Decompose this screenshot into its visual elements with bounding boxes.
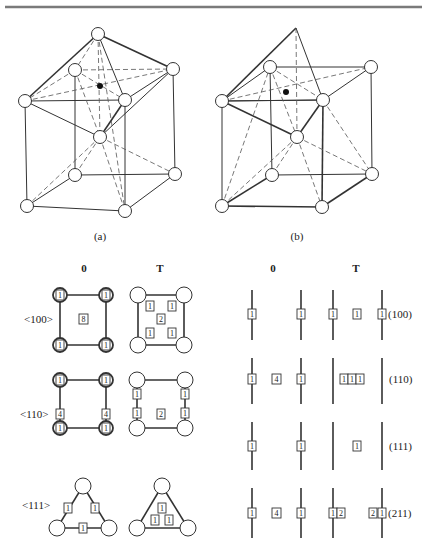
atom <box>69 169 82 182</box>
svg-text:1: 1 <box>355 310 359 319</box>
svg-text:2: 2 <box>339 509 343 518</box>
svg-text:1: 1 <box>380 509 384 518</box>
atom <box>169 168 182 181</box>
svg-text:1: 1 <box>58 291 62 300</box>
atom <box>266 169 279 182</box>
plane-label-111: (111) <box>389 440 412 453</box>
svg-text:1: 1 <box>380 310 384 319</box>
figure-canvas: (a) <box>0 0 433 558</box>
svg-text:1: 1 <box>58 376 62 385</box>
svg-text:1: 1 <box>104 376 108 385</box>
cube-b-tetrahedral <box>216 28 379 214</box>
atom <box>94 131 107 144</box>
svg-text:1: 1 <box>299 442 303 451</box>
atom <box>365 61 378 74</box>
caption-a: (a) <box>94 230 107 243</box>
atom <box>216 200 229 213</box>
svg-text:1: 1 <box>355 442 359 451</box>
svg-text:1: 1 <box>58 424 62 433</box>
atom <box>264 61 277 74</box>
svg-text:4: 4 <box>275 375 279 384</box>
svg-text:1: 1 <box>183 390 187 399</box>
row-100-direction: 1 1 1 1 8 1 1 2 1 1 <box>53 287 192 353</box>
direction-label-100: <100> <box>24 313 53 325</box>
svg-text:1: 1 <box>153 516 157 525</box>
row-111-direction: 1 1 1 1 1 1 <box>49 478 196 536</box>
atom <box>69 64 82 77</box>
atom <box>167 63 180 76</box>
svg-text:1: 1 <box>167 516 171 525</box>
atom <box>291 131 304 144</box>
atom <box>317 94 330 107</box>
row-100-plane: 1 1 1 1 1 <box>248 290 386 340</box>
svg-text:2: 2 <box>159 315 163 324</box>
svg-text:1: 1 <box>135 409 139 418</box>
svg-text:1: 1 <box>104 341 108 350</box>
svg-text:1: 1 <box>299 310 303 319</box>
caption-b: (b) <box>291 230 304 243</box>
left-header-o: 0 <box>81 262 87 274</box>
svg-text:2: 2 <box>371 509 375 518</box>
svg-text:1: 1 <box>104 424 108 433</box>
right-header-t: T <box>352 262 360 274</box>
svg-text:1: 1 <box>104 291 108 300</box>
direction-label-110: <110> <box>20 408 49 420</box>
svg-text:1: 1 <box>299 509 303 518</box>
atom <box>119 205 132 218</box>
plane-label-110: (110) <box>389 373 413 386</box>
plane-label-211: (211) <box>388 507 412 520</box>
svg-text:1: 1 <box>81 524 85 533</box>
atom <box>92 28 105 41</box>
interstitial-dot <box>283 89 289 95</box>
svg-text:4: 4 <box>275 509 279 518</box>
cube-a-octahedral <box>19 28 182 218</box>
svg-text:1: 1 <box>58 341 62 350</box>
plane-label-100: (100) <box>388 308 412 321</box>
svg-text:1: 1 <box>160 504 164 513</box>
svg-text:1: 1 <box>93 504 97 513</box>
interstitial-dot <box>97 83 103 89</box>
svg-text:1: 1 <box>250 509 254 518</box>
atom <box>21 200 34 213</box>
atom <box>216 95 229 108</box>
svg-text:1: 1 <box>350 375 354 384</box>
right-header-o: 0 <box>270 262 276 274</box>
svg-text:1: 1 <box>148 302 152 311</box>
svg-text:1: 1 <box>331 310 335 319</box>
direction-label-111: <111> <box>22 499 50 511</box>
row-111-plane: 1 1 1 <box>248 422 382 470</box>
atom <box>19 95 32 108</box>
atom <box>119 94 132 107</box>
svg-text:1: 1 <box>135 390 139 399</box>
row-211-plane: 1 4 1 1 2 2 1 <box>248 488 386 538</box>
svg-text:1: 1 <box>250 442 254 451</box>
svg-text:1: 1 <box>66 504 70 513</box>
svg-text:1: 1 <box>331 509 335 518</box>
svg-text:1: 1 <box>250 310 254 319</box>
svg-text:8: 8 <box>82 315 86 324</box>
row-110-direction: 1 1 1 1 4 4 1 1 1 1 2 <box>53 372 193 436</box>
svg-text:2: 2 <box>159 410 163 419</box>
svg-text:1: 1 <box>170 329 174 338</box>
left-header-t: T <box>156 262 164 274</box>
svg-text:4: 4 <box>104 410 108 419</box>
svg-text:1: 1 <box>342 375 346 384</box>
atom <box>366 168 379 181</box>
svg-text:1: 1 <box>183 409 187 418</box>
svg-text:1: 1 <box>299 375 303 384</box>
svg-text:1: 1 <box>250 375 254 384</box>
svg-text:1: 1 <box>170 302 174 311</box>
svg-text:1: 1 <box>358 375 362 384</box>
svg-text:1: 1 <box>148 329 152 338</box>
svg-text:4: 4 <box>58 410 62 419</box>
atom <box>316 201 329 214</box>
row-110-plane: 1 4 1 1 1 1 <box>248 358 382 404</box>
